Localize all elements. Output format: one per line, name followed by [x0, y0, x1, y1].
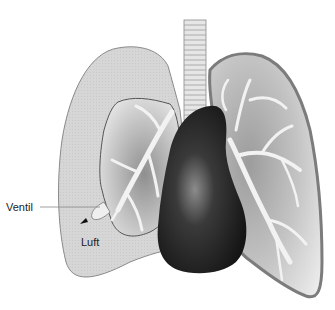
anatomy-illustration	[0, 0, 335, 310]
trachea	[184, 20, 206, 120]
valve-label: Ventil	[6, 201, 33, 213]
air-label: Luft	[81, 236, 99, 248]
